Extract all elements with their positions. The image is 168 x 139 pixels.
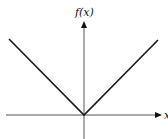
y-axis-arrow-icon — [81, 21, 87, 28]
x-axis-arrow-icon — [155, 112, 162, 118]
x-axis-label: x — [164, 109, 168, 122]
function-graph: f(x) x — [0, 0, 168, 139]
y-axis-label: f(x) — [74, 6, 94, 19]
